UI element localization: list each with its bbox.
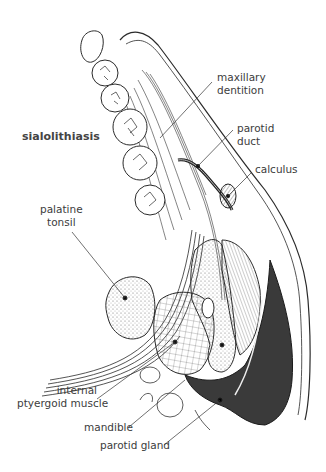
label-palatine-tonsil: palatine tonsil bbox=[40, 203, 83, 229]
label-parotid-gland: parotid gland bbox=[100, 439, 170, 452]
diagram-title: sialolithiasis bbox=[22, 130, 100, 143]
cervical-structures bbox=[140, 367, 210, 430]
label-mandible: mandible bbox=[84, 421, 133, 434]
teeth bbox=[81, 31, 165, 215]
label-internal-ptyergoid-muscle: internal ptyergoid muscle bbox=[17, 384, 97, 410]
label-calculus: calculus bbox=[255, 163, 298, 176]
label-maxillary-dentition: maxillary dentition bbox=[217, 71, 266, 97]
label-parotid-duct: parotid duct bbox=[237, 122, 274, 148]
palatine-tonsil bbox=[106, 277, 155, 339]
